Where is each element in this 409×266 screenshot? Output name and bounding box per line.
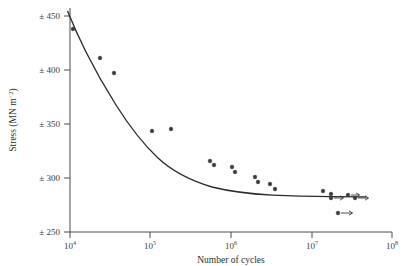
x-tick-exponent-1e8: 8 bbox=[395, 240, 398, 246]
y-tick-label-250: ± 250 bbox=[39, 227, 60, 237]
data-point bbox=[212, 163, 216, 167]
x-axis-title: Number of cycles bbox=[197, 255, 265, 265]
x-tick-exponent-1e4: 4 bbox=[73, 240, 76, 246]
data-point bbox=[273, 187, 277, 191]
data-point bbox=[346, 193, 350, 197]
data-point bbox=[112, 71, 116, 75]
sn-fitted-curve bbox=[68, 11, 367, 197]
data-point bbox=[98, 56, 102, 60]
data-point bbox=[268, 182, 272, 186]
data-point bbox=[321, 189, 325, 193]
data-point bbox=[150, 129, 154, 133]
runout-marker bbox=[336, 211, 353, 215]
x-tick-marks bbox=[70, 232, 392, 238]
data-point bbox=[230, 165, 234, 169]
y-tick-label-400: ± 400 bbox=[39, 65, 60, 75]
x-tick-exponent-1e7: 7 bbox=[315, 240, 318, 246]
x-tick-label-1e6: 106 bbox=[225, 240, 237, 251]
x-tick-exponent-1e6: 6 bbox=[234, 240, 237, 246]
y-tick-label-450: ± 450 bbox=[39, 11, 60, 21]
y-tick-marks bbox=[64, 16, 70, 232]
data-point bbox=[169, 127, 173, 131]
x-tick-exponent-1e5: 5 bbox=[153, 240, 156, 246]
y-axis-title-exponent: −2 bbox=[7, 91, 14, 98]
data-point bbox=[233, 170, 237, 174]
y-axis-title: Stress (MN m−2) bbox=[7, 88, 20, 151]
data-point bbox=[71, 27, 75, 31]
data-point bbox=[253, 175, 257, 179]
y-tick-label-350: ± 350 bbox=[39, 119, 60, 129]
data-point bbox=[353, 196, 357, 200]
chart-canvas: ± 450 ± 400 ± 350 ± 300 ± 250 104 105 10… bbox=[0, 0, 409, 266]
fatigue-s-n-chart: ± 450 ± 400 ± 350 ± 300 ± 250 104 105 10… bbox=[0, 0, 409, 266]
data-point bbox=[336, 211, 340, 215]
data-points-failed bbox=[71, 27, 333, 196]
y-tick-labels: ± 450 ± 400 ± 350 ± 300 ± 250 bbox=[39, 11, 60, 237]
x-tick-label-1e8: 108 bbox=[386, 240, 398, 251]
x-tick-labels: 104 105 106 107 108 bbox=[64, 240, 398, 251]
y-axis-title-main: Stress (MN m bbox=[8, 98, 19, 152]
data-point bbox=[329, 192, 333, 196]
y-tick-label-300: ± 300 bbox=[39, 173, 60, 183]
x-tick-label-1e7: 107 bbox=[306, 240, 318, 251]
y-axis-title-close: ) bbox=[8, 88, 19, 91]
data-point bbox=[208, 159, 212, 163]
x-tick-label-1e5: 105 bbox=[144, 240, 156, 251]
data-point bbox=[256, 180, 260, 184]
x-tick-label-1e4: 104 bbox=[64, 240, 76, 251]
data-point bbox=[329, 196, 333, 200]
